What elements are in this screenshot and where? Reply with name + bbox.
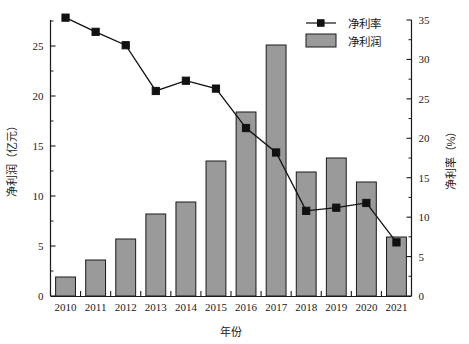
- right-tick-label: 35: [419, 14, 431, 26]
- legend-label-net-profit: 净利润: [348, 35, 381, 48]
- data-point-marker-2020: [363, 199, 370, 206]
- data-point-marker-2013: [152, 87, 159, 94]
- left-tick-label: 20: [33, 90, 45, 102]
- right-tick-label: 25: [419, 93, 431, 105]
- left-tick-label: 0: [38, 290, 44, 302]
- data-point-marker-2015: [212, 85, 219, 92]
- left-tick-label: 25: [33, 40, 45, 52]
- bar-2010: [56, 277, 76, 296]
- bar-2012: [116, 239, 136, 296]
- data-point-marker-2011: [92, 28, 99, 35]
- data-point-marker-2017: [273, 149, 280, 156]
- x-tick-label: 2018: [295, 301, 318, 313]
- left-axis-title: 净利润（亿元）: [5, 120, 18, 197]
- left-tick-label: 15: [33, 140, 45, 152]
- x-tick-label: 2016: [235, 301, 258, 313]
- right-tick-label: 5: [419, 251, 425, 263]
- bar-2019: [326, 158, 346, 296]
- bar-2013: [146, 214, 166, 296]
- x-tick-label: 2012: [115, 301, 137, 313]
- legend-bar-swatch-icon: [306, 34, 336, 47]
- chart-container: 0510152025 05101520253035 20102011201220…: [0, 0, 469, 344]
- bar-2017: [266, 45, 286, 296]
- legend-label-net-margin: 净利率: [348, 17, 381, 30]
- right-tick-label: 20: [419, 132, 431, 144]
- bar-2018: [296, 172, 316, 296]
- x-axis-title: 年份: [220, 325, 242, 338]
- right-tick-label: 0: [419, 290, 425, 302]
- left-tick-label: 10: [33, 190, 45, 202]
- bar-2015: [206, 161, 226, 296]
- bar-2011: [86, 260, 106, 296]
- bar-2016: [236, 112, 256, 296]
- x-tick-label: 2015: [205, 301, 228, 313]
- right-tick-label: 15: [419, 172, 431, 184]
- x-tick-label: 2014: [175, 301, 198, 313]
- x-tick-label: 2020: [355, 301, 378, 313]
- left-tick-label: 5: [38, 240, 44, 252]
- right-axis-title: 净利率（%）: [444, 126, 457, 191]
- bar-2014: [176, 202, 196, 296]
- right-tick-label: 30: [419, 53, 431, 65]
- data-point-marker-2014: [182, 77, 189, 84]
- right-tick-label: 10: [419, 211, 431, 223]
- x-tick-label: 2019: [325, 301, 348, 313]
- x-tick-label: 2017: [265, 301, 288, 313]
- x-tick-label: 2013: [145, 301, 168, 313]
- x-tick-label: 2021: [385, 301, 407, 313]
- data-point-marker-2010: [62, 14, 69, 21]
- data-point-marker-2018: [303, 207, 310, 214]
- data-point-marker-2012: [122, 42, 129, 49]
- x-tick-label: 2011: [85, 301, 107, 313]
- data-point-marker-2021: [393, 239, 400, 246]
- legend-square-marker-icon: [317, 19, 325, 27]
- x-tick-label: 2010: [55, 301, 78, 313]
- data-point-marker-2016: [242, 124, 249, 131]
- data-point-marker-2019: [333, 204, 340, 211]
- dual-axis-bar-line-chart: 0510152025 05101520253035 20102011201220…: [0, 0, 469, 344]
